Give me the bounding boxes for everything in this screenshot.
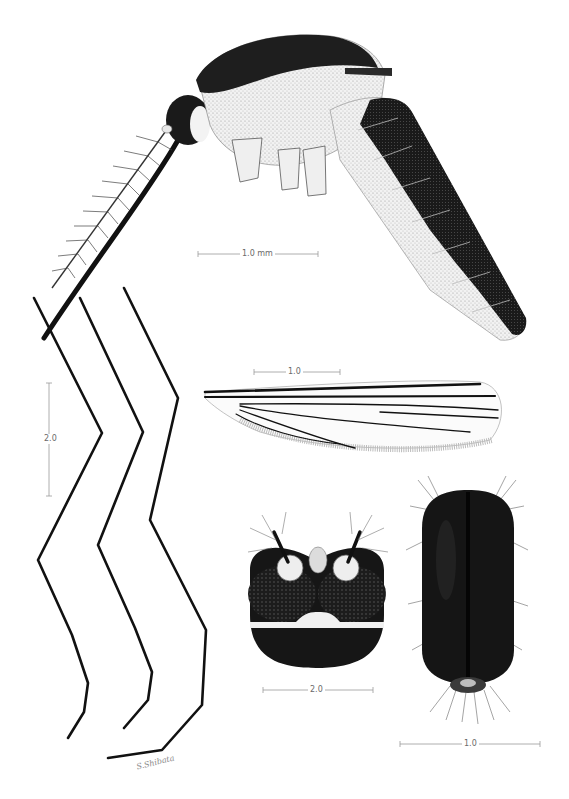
foreleg	[34, 298, 102, 738]
scale-label-habitus: 1.0 mm	[240, 249, 275, 259]
habitus-lateral	[44, 35, 526, 340]
head-frontal	[248, 512, 388, 668]
antenna	[52, 128, 172, 288]
scale-label-wing: 1.0	[286, 367, 303, 377]
thorax-dorsal	[406, 476, 528, 724]
scale-label-head: 2.0	[308, 685, 325, 695]
wing	[205, 381, 501, 449]
scale-label-legs: 2.0	[42, 434, 59, 444]
hindleg	[108, 288, 206, 758]
midleg	[80, 298, 152, 728]
illustration-plate	[0, 0, 569, 799]
proboscis	[44, 140, 178, 338]
scale-label-thorax: 1.0	[462, 739, 479, 749]
legs	[34, 288, 206, 758]
